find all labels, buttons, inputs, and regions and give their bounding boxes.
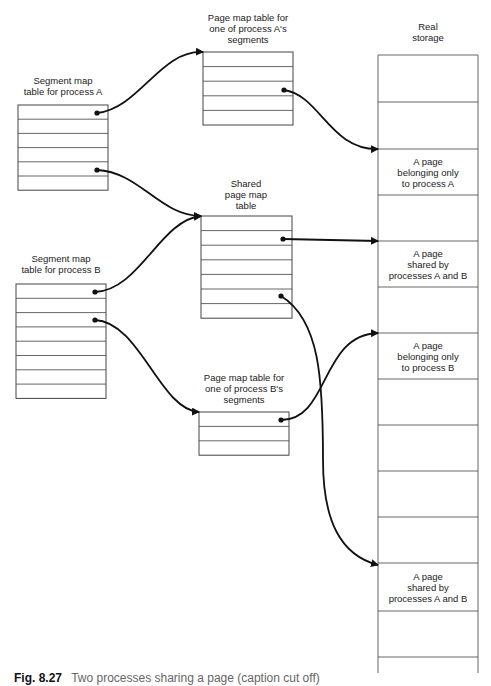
table-title-line: Segment map xyxy=(31,253,90,264)
arrow-path xyxy=(281,333,378,420)
svg-text:Fig. 8.27 Two processes: Fig. 8.27 Two processes sharing a page (… xyxy=(14,671,320,685)
table-title-line: table xyxy=(236,200,257,211)
pointer-arrow xyxy=(278,293,378,565)
table-title-line: Shared xyxy=(231,178,262,189)
table-page-a: Page map table forone of process A'ssegm… xyxy=(203,12,293,125)
arrow-path xyxy=(284,90,378,149)
figure-caption: Fig. 8.27 Two processes sharing a page (… xyxy=(14,671,320,685)
table-shared: Sharedpage maptable xyxy=(201,178,292,318)
storage-frame: A pagebelonging onlyto process B xyxy=(397,340,459,373)
table-segment-b: Segment maptable for process B xyxy=(16,253,106,398)
storage-frame-text: A page xyxy=(413,248,443,259)
pointer-dot-icon xyxy=(278,417,283,422)
storage-title-line: storage xyxy=(412,32,444,43)
storage-title-line: Real xyxy=(418,21,438,32)
pointer-dot-icon xyxy=(92,289,97,294)
arrow-path xyxy=(97,170,201,216)
table-segment-a: Segment maptable for process A xyxy=(18,75,108,190)
table-title-line: table for process B xyxy=(21,264,100,275)
pointer-arrow xyxy=(278,333,378,423)
storage-frame-text: shared by xyxy=(407,259,449,270)
table-title-line: one of process A's xyxy=(209,23,287,34)
pointer-arrow xyxy=(280,236,378,241)
caption-number: Fig. 8.27 xyxy=(14,671,62,685)
table-title-line: page map xyxy=(225,189,267,200)
pointer-arrow xyxy=(94,52,203,116)
table-border xyxy=(203,52,293,125)
storage-frame: A pageshared byprocesses A and B xyxy=(389,571,468,604)
storage-frame-text: to process B xyxy=(402,362,455,373)
table-title-line: Segment map xyxy=(33,75,92,86)
table-border xyxy=(199,412,289,455)
pointer-dot-icon xyxy=(281,87,286,92)
storage-frame-text: processes A and B xyxy=(389,593,468,604)
arrow-path xyxy=(95,320,199,412)
pointer-arrow xyxy=(94,167,201,216)
arrow-path xyxy=(95,216,201,292)
caption-text: Two processes sharing a page (caption cu… xyxy=(71,671,320,685)
pointer-dot-icon xyxy=(94,167,99,172)
storage-frame: A pageshared byprocesses A and B xyxy=(389,248,468,281)
pointer-arrow xyxy=(92,216,201,295)
table-title-line: segments xyxy=(227,34,268,45)
table-title-line: segments xyxy=(223,394,264,405)
arrow-path xyxy=(283,239,378,241)
pointer-arrow xyxy=(281,87,378,149)
table-title-line: Page map table for xyxy=(208,12,288,23)
table-title-line: one of process B's xyxy=(205,383,283,394)
storage-frame-text: to process A xyxy=(402,178,455,189)
pointer-arrow xyxy=(92,317,199,412)
pointer-dot-icon xyxy=(278,293,283,298)
table-page-b: Page map table forone of process B'ssegm… xyxy=(199,372,289,455)
storage-frame-text: A page xyxy=(413,156,443,167)
table-title-line: table for process A xyxy=(24,86,103,97)
pointer-dot-icon xyxy=(280,236,285,241)
storage-frame-text: shared by xyxy=(407,582,449,593)
storage-frame-text: processes A and B xyxy=(389,270,468,281)
table-title-line: Page map table for xyxy=(204,372,284,383)
storage-frame-text: A page xyxy=(413,571,443,582)
storage-frame-text: belonging only xyxy=(397,167,459,178)
storage-frame-text: A page xyxy=(413,340,443,351)
storage-frame: A pagebelonging onlyto process A xyxy=(397,156,459,189)
storage-frame-text: belonging only xyxy=(397,351,459,362)
pointer-dot-icon xyxy=(94,110,99,115)
diagram-canvas: Segment maptable for process ASegment ma… xyxy=(0,0,491,686)
table-border xyxy=(201,216,292,318)
pointer-dot-icon xyxy=(92,317,97,322)
arrow-path xyxy=(97,52,203,113)
